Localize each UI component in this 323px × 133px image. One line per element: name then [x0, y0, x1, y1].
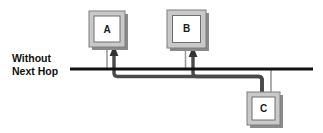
- node-b[interactable]: B: [167, 10, 209, 51]
- node-a-label: A: [103, 24, 110, 35]
- caption-line-2: Next Hop: [12, 65, 58, 77]
- path-c-to-b: [193, 56, 262, 95]
- node-c[interactable]: C: [247, 92, 283, 128]
- node-c-label: C: [260, 103, 267, 114]
- caption-line-1: Without: [12, 52, 51, 64]
- diagram-canvas: A B C Without Next Hop: [0, 0, 323, 133]
- thick-routed-paths: [114, 56, 262, 95]
- node-b-label: B: [183, 23, 190, 34]
- caption: Without Next Hop: [12, 52, 58, 77]
- node-a[interactable]: A: [89, 11, 128, 50]
- network-diagram: A B C Without Next Hop: [0, 0, 323, 133]
